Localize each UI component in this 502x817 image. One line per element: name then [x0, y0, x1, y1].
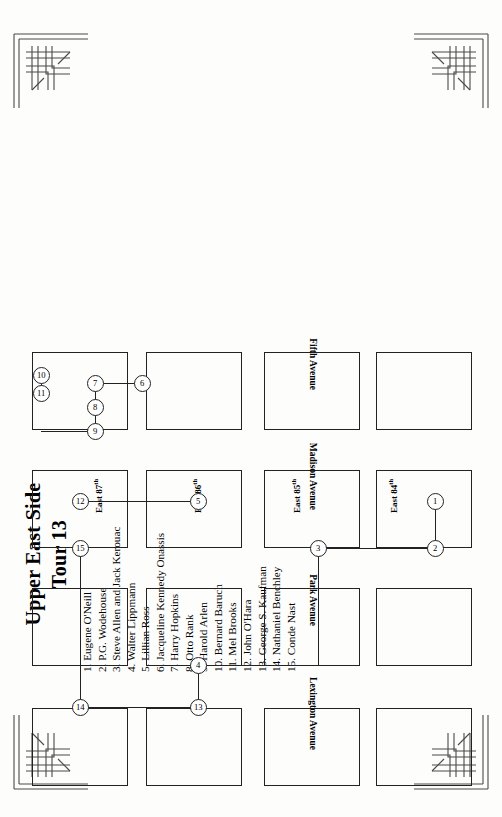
- street-label-ordinal: th: [387, 478, 394, 484]
- street-label: East 84th: [387, 478, 399, 512]
- tour-stop-marker[interactable]: 6: [134, 375, 151, 392]
- avenue-label: Park Avenue: [308, 574, 318, 626]
- city-block: [146, 588, 242, 666]
- tour-stop-marker[interactable]: 10: [33, 367, 50, 384]
- tour-stop-marker[interactable]: 7: [87, 375, 104, 392]
- avenue-label: Madison Avenue: [308, 442, 318, 509]
- tour-stop-number: 12: [72, 494, 87, 508]
- tour-stop-number: 8: [87, 400, 102, 414]
- tour-stop-number: 3: [310, 541, 325, 555]
- city-block: [376, 588, 472, 666]
- tour-stop-marker[interactable]: 4: [190, 657, 207, 674]
- tour-stop-number: 5: [190, 494, 205, 508]
- tour-stop-marker[interactable]: 2: [427, 540, 444, 557]
- tour-stop-marker[interactable]: 9: [87, 423, 104, 440]
- street-label-ordinal: th: [290, 478, 297, 484]
- tour-stop-number: 13: [190, 700, 205, 714]
- avenue-label: Fifth Avenue: [308, 338, 318, 390]
- street-label: East 85th: [290, 478, 302, 512]
- legend-item: 12. John O'Hara: [240, 372, 255, 672]
- tour-stop-number: 14: [72, 700, 87, 714]
- city-block: [32, 708, 128, 786]
- avenue-label: Lexington Avenue: [308, 677, 318, 750]
- street-label-text: East 85: [292, 484, 302, 512]
- street-label-text: East 87: [94, 484, 104, 512]
- route-segment: [80, 549, 81, 708]
- tour-stop-marker[interactable]: 15: [72, 540, 89, 557]
- city-block: [376, 708, 472, 786]
- tour-stop-number: 10: [33, 368, 48, 382]
- route-segment: [198, 664, 318, 665]
- tour-stop-marker[interactable]: 13: [190, 699, 207, 716]
- street-label: East 87th: [92, 478, 104, 512]
- tour-stop-marker[interactable]: 14: [72, 699, 89, 716]
- street-label-ordinal: th: [92, 478, 99, 484]
- tour-stop-number: 15: [72, 541, 87, 555]
- tour-stop-number: 9: [87, 424, 102, 438]
- city-block: [376, 352, 472, 430]
- tour-stop-number: 1: [427, 494, 442, 508]
- tour-stop-number: 2: [427, 541, 442, 555]
- tour-stop-number: 7: [87, 376, 102, 390]
- tour-stop-marker[interactable]: 1: [427, 493, 444, 510]
- map-canvas: Upper East Side Tour 13 1. Eugene O'Neil…: [16, 24, 486, 794]
- tour-stop-marker[interactable]: 8: [87, 399, 104, 416]
- tour-stop-marker[interactable]: 12: [72, 493, 89, 510]
- city-block: [146, 708, 242, 786]
- tour-stop-marker[interactable]: 11: [33, 385, 50, 402]
- tour-map-page: Upper East Side Tour 13 1. Eugene O'Neil…: [0, 0, 502, 817]
- route-segment: [318, 547, 435, 548]
- street-label-text: East 84: [389, 484, 399, 512]
- route-segment: [80, 706, 198, 707]
- tour-stop-number: 4: [190, 658, 205, 672]
- route-segment: [318, 549, 319, 666]
- street-label-ordinal: th: [191, 478, 198, 484]
- tour-stop-number: 6: [134, 376, 149, 390]
- tour-stop-marker[interactable]: 5: [190, 493, 207, 510]
- tour-stop-number: 11: [33, 386, 48, 400]
- city-block: [146, 352, 242, 430]
- tour-stop-marker[interactable]: 3: [310, 540, 327, 557]
